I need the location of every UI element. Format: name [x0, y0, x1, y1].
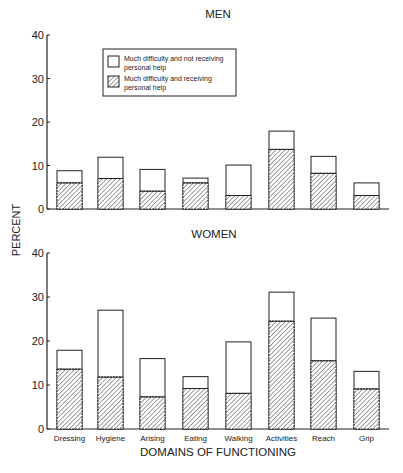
legend-label-hatched-2: personal help — [124, 84, 166, 92]
category-label: Walking — [224, 434, 252, 443]
bar-activities — [269, 292, 294, 429]
y-axis-label: PERCENT — [10, 203, 22, 256]
bar-arising — [140, 359, 165, 429]
bar-segment-hatched — [226, 393, 251, 429]
y-tick-label: 20 — [32, 116, 44, 128]
category-label: Arising — [140, 434, 164, 443]
category-label: Eating — [184, 434, 207, 443]
bar-activities — [269, 131, 294, 209]
bar-walking — [226, 165, 251, 209]
bar-grip — [354, 183, 379, 209]
bar-walking — [226, 342, 251, 429]
bar-dressing — [57, 350, 82, 429]
legend-swatch-open — [108, 56, 119, 67]
legend: Much difficulty and not receiving person… — [103, 49, 236, 96]
women-chart: 010203040DressingHygieneArisingEatingWal… — [32, 247, 389, 443]
bar-segment-hatched — [57, 183, 82, 209]
men-title: MEN — [205, 8, 231, 20]
category-label: Activities — [266, 434, 298, 443]
y-tick-label: 10 — [32, 160, 44, 172]
bar-segment-hatched — [183, 389, 208, 429]
y-tick-label: 0 — [38, 423, 44, 435]
legend-label-open-2: personal help — [124, 64, 166, 72]
legend-label-hatched-1: Much difficulty and receiving — [124, 75, 212, 83]
bar-segment-hatched — [354, 196, 379, 209]
bar-segment-hatched — [98, 179, 123, 209]
bar-segment-hatched — [57, 369, 82, 429]
bar-dressing — [57, 171, 82, 209]
bar-segment-hatched — [269, 149, 294, 209]
bar-reach — [311, 156, 336, 209]
bar-hygiene — [98, 310, 123, 429]
bar-eating — [183, 377, 208, 429]
y-tick-label: 0 — [38, 203, 44, 215]
women-title: WOMEN — [191, 228, 236, 240]
bar-segment-hatched — [311, 361, 336, 429]
y-tick-label: 20 — [32, 335, 44, 347]
category-label: Reach — [312, 434, 335, 443]
bar-eating — [183, 178, 208, 209]
bar-segment-hatched — [183, 183, 208, 209]
y-tick-label: 30 — [32, 73, 44, 85]
y-tick-label: 40 — [32, 247, 44, 259]
legend-swatch-hatched — [108, 76, 119, 87]
bar-segment-hatched — [140, 191, 165, 209]
bar-segment-hatched — [311, 173, 336, 209]
category-label: Dressing — [54, 434, 86, 443]
bar-reach — [311, 318, 336, 429]
bar-segment-hatched — [226, 196, 251, 209]
category-label: Hygiene — [96, 434, 126, 443]
y-tick-label: 10 — [32, 379, 44, 391]
bar-grip — [354, 371, 379, 429]
bar-segment-hatched — [140, 397, 165, 429]
bar-arising — [140, 169, 165, 209]
x-axis-label: DOMAINS OF FUNCTIONING — [140, 446, 296, 458]
y-tick-label: 40 — [32, 29, 44, 41]
bar-segment-hatched — [269, 321, 294, 429]
legend-label-open-1: Much difficulty and not receiving — [124, 55, 224, 63]
y-tick-label: 30 — [32, 291, 44, 303]
bar-segment-hatched — [354, 389, 379, 429]
bar-hygiene — [98, 157, 123, 209]
figure: MEN WOMEN PERCENT DOMAINS OF FUNCTIONING… — [0, 0, 403, 473]
category-label: Grip — [359, 434, 375, 443]
bar-segment-hatched — [98, 377, 123, 429]
